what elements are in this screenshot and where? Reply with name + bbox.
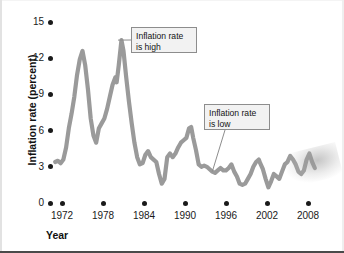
x-tick-label: 1984 bbox=[127, 210, 161, 221]
y-tick-dot bbox=[48, 92, 53, 97]
x-tick-label: 1978 bbox=[86, 210, 120, 221]
y-tick-label: 12 bbox=[22, 52, 44, 63]
x-tick-label: 1996 bbox=[209, 210, 243, 221]
y-tick-label: 6 bbox=[22, 125, 44, 136]
x-tick-dot bbox=[183, 201, 188, 206]
x-tick-label: 2008 bbox=[291, 210, 325, 221]
inflation-rate-line bbox=[55, 40, 315, 187]
y-tick-label: 15 bbox=[22, 16, 44, 27]
x-tick-label: 1990 bbox=[168, 210, 202, 221]
annotation-inflation-high: Inflation rate is high bbox=[131, 27, 197, 53]
y-tick-dot bbox=[48, 56, 53, 61]
x-tick-dot bbox=[224, 201, 229, 206]
x-tick-dot bbox=[265, 201, 270, 206]
y-tick-label: 0 bbox=[22, 197, 44, 208]
x-tick-dot bbox=[60, 201, 65, 206]
x-tick-dot bbox=[306, 201, 311, 206]
annotation-inflation-low: Inflation rate is low bbox=[204, 104, 270, 130]
chart-figure: Inflation rate (percent) Year 0369121519… bbox=[0, 0, 344, 253]
y-tick-label: 9 bbox=[22, 88, 44, 99]
callout-leader-low bbox=[212, 130, 225, 172]
x-tick-dot bbox=[142, 201, 147, 206]
y-tick-label: 3 bbox=[22, 161, 44, 172]
x-tick-label: 1972 bbox=[45, 210, 79, 221]
y-tick-dot bbox=[48, 201, 53, 206]
x-tick-dot bbox=[101, 201, 106, 206]
x-tick-label: 2002 bbox=[250, 210, 284, 221]
y-tick-dot bbox=[48, 20, 53, 25]
